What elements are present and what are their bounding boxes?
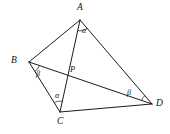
geometry-figure: A B C D P α β α β	[0, 0, 170, 134]
figure-canvas	[0, 0, 170, 134]
angle-arc-C	[54, 101, 62, 103]
vertex-label-P: P	[70, 65, 75, 74]
segment-CD	[60, 104, 152, 112]
segments-group	[29, 20, 152, 112]
vertex-label-A: A	[77, 3, 83, 13]
angle-label-D: β	[127, 89, 131, 97]
segment-BC	[29, 62, 60, 112]
angle-label-A: α	[82, 27, 86, 35]
angle-label-B: β	[36, 70, 40, 78]
vertex-label-D: D	[156, 99, 163, 109]
vertex-label-B: B	[11, 56, 17, 66]
vertex-label-C: C	[57, 117, 63, 127]
angle-label-C: α	[55, 92, 59, 100]
angle-arc-D	[142, 96, 145, 101]
